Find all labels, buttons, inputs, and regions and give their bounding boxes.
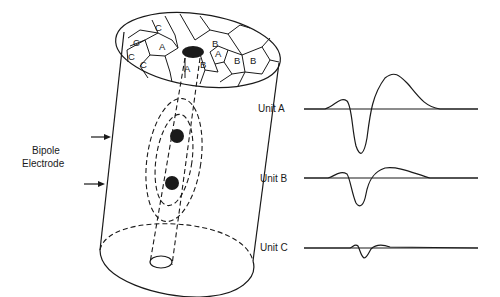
pickup-zone-outer bbox=[139, 95, 210, 225]
unit-c-trace: Unit C bbox=[260, 242, 478, 258]
arrow-lower-icon bbox=[84, 181, 105, 187]
territory-label: C bbox=[155, 22, 162, 33]
unit-a-label: Unit A bbox=[258, 103, 285, 114]
territory-label: A bbox=[159, 41, 166, 52]
unit-b-trace: Unit B bbox=[260, 168, 478, 206]
territory-label: C bbox=[128, 51, 135, 62]
electrode-shaft-end bbox=[150, 256, 172, 268]
bipole-label-line1: Bipole bbox=[32, 145, 60, 156]
bipole-electrode-diagram: C C C C A A A B B B B Bipole Electrode U… bbox=[0, 0, 500, 297]
territory-label: B bbox=[250, 55, 256, 66]
unit-b-waveform bbox=[304, 168, 478, 206]
cylinder-left-edge bbox=[100, 32, 124, 250]
territory-label: B bbox=[200, 59, 206, 70]
pickup-zones bbox=[139, 95, 210, 225]
territory-label: B bbox=[212, 38, 218, 49]
territory-label: C bbox=[133, 37, 140, 48]
electrode-shaft bbox=[150, 58, 200, 268]
cylinder-right-edge bbox=[253, 63, 279, 261]
electrode-tip bbox=[182, 46, 204, 58]
territory-label: C bbox=[140, 59, 147, 70]
unit-b-label: Unit B bbox=[260, 173, 288, 184]
unit-c-label: Unit C bbox=[260, 242, 288, 253]
arrow-upper-icon bbox=[91, 134, 111, 140]
territory-label: A bbox=[184, 63, 191, 74]
electrode-contact-lower bbox=[165, 176, 179, 190]
unit-a-waveform bbox=[304, 74, 478, 153]
unit-c-waveform bbox=[304, 245, 478, 258]
cylinder-bottom-front bbox=[100, 250, 254, 297]
electrode-contact-upper bbox=[170, 129, 184, 143]
territory-label: A bbox=[215, 48, 222, 59]
bipole-label-line2: Electrode bbox=[22, 158, 65, 169]
unit-a-trace: Unit A bbox=[258, 74, 478, 153]
territory-label: B bbox=[234, 55, 240, 66]
